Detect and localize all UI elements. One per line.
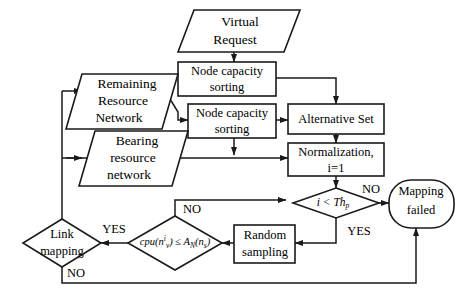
node-node-capacity-sorting-2[interactable]: Node capacity sorting: [188, 104, 276, 138]
node-random-sampling[interactable]: Random sampling: [234, 225, 295, 263]
node-cpu-constraint[interactable]: cpu(niv) ≤ AN(ns): [128, 216, 222, 270]
cpu-tail: (n: [195, 236, 204, 248]
edge-remaining-to-sorting2: [170, 99, 188, 120]
mapping-failed-label-2: failed: [407, 203, 436, 217]
remaining-label-2: Resource: [98, 93, 148, 108]
cpu-end: ): [206, 236, 211, 248]
node-remaining-resource-network[interactable]: Remaining Resource Network: [66, 74, 178, 129]
bearing-label-1: Bearing: [116, 133, 159, 148]
node-link-mapping[interactable]: Link mapping: [23, 219, 101, 267]
node-normalization[interactable]: Normalization, i=1: [288, 143, 384, 176]
virtual-request-label-1: Virtual: [221, 14, 259, 29]
link-mapping-label-1: Link: [50, 227, 74, 241]
random-sampling-label-2: sampling: [242, 245, 289, 259]
flowchart-canvas: Virtual Request Node capacity sorting No…: [0, 0, 456, 294]
node-node-capacity-sorting-1[interactable]: Node capacity sorting: [178, 62, 276, 96]
cpu-main: cpu(n: [140, 236, 164, 248]
node-bearing-resource-network[interactable]: Bearing resource network: [79, 131, 188, 186]
virtual-request-label-2: Request: [213, 32, 257, 47]
sorting1-label-2: sorting: [210, 80, 245, 94]
edge-label-threshold-yes: YES: [347, 224, 371, 238]
node-alternative-set[interactable]: Alternative Set: [288, 104, 384, 134]
remaining-label-3: Network: [95, 110, 142, 125]
sorting1-label-1: Node capacity: [191, 64, 264, 78]
normalization-label-1: Normalization,: [298, 145, 373, 159]
bearing-label-3: network: [107, 167, 151, 182]
threshold-main: i < Th: [317, 196, 346, 208]
edge-label-cpu-no: NO: [183, 202, 201, 216]
threshold-decision-label: i < Thp: [317, 196, 350, 210]
bearing-label-2: resource: [110, 150, 156, 165]
edge-sorting1-to-alternative-set: [276, 78, 336, 104]
remaining-label-1: Remaining: [97, 76, 156, 91]
alternative-set-label: Alternative Set: [298, 112, 374, 126]
edge-threshold-yes-to-random-sampling: [295, 218, 336, 243]
link-mapping-label-2: mapping: [40, 244, 84, 258]
mapping-failed-label-1: Mapping: [398, 184, 444, 198]
random-sampling-label-1: Random: [244, 228, 287, 242]
node-virtual-request[interactable]: Virtual Request: [178, 10, 300, 52]
edge-label-link-no: NO: [67, 266, 85, 280]
node-mapping-failed[interactable]: Mapping failed: [389, 180, 454, 228]
cpu-constraint-label: cpu(niv) ≤ AN(ns): [140, 234, 211, 250]
cpu-mid: ) ≤ A: [168, 236, 190, 248]
normalization-label-2: i=1: [328, 161, 345, 175]
edge-label-cpu-yes: YES: [102, 222, 126, 236]
sorting2-label-2: sorting: [215, 122, 250, 136]
threshold-sub: p: [345, 201, 350, 210]
sorting2-label-1: Node capacity: [196, 106, 269, 120]
edge-label-threshold-no: NO: [362, 182, 380, 196]
